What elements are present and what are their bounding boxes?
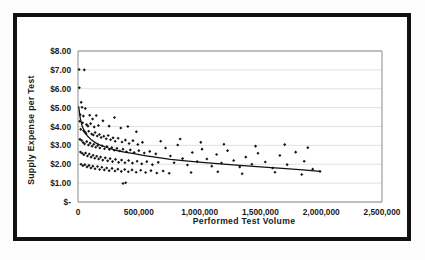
chart-canvas: $-$1.00$2.00$3.00$4.00$5.00$6.00$7.00$8.…: [17, 17, 415, 245]
data-point: [128, 142, 131, 145]
data-point: [135, 130, 138, 133]
data-point: [190, 171, 193, 174]
data-point: [82, 115, 85, 118]
data-point: [109, 138, 112, 141]
data-point: [168, 172, 171, 175]
data-point: [89, 122, 92, 125]
data-point: [303, 160, 306, 163]
data-point: [210, 165, 213, 168]
data-point: [176, 143, 179, 146]
data-point: [216, 170, 219, 173]
data-point: [145, 160, 148, 163]
data-point: [232, 159, 235, 162]
data-point: [91, 117, 94, 120]
data-point: [116, 168, 119, 171]
data-point: [114, 158, 117, 161]
data-point: [117, 137, 120, 140]
data-point: [108, 169, 111, 172]
data-point: [88, 114, 91, 117]
data-point: [155, 171, 158, 174]
data-point: [111, 136, 114, 139]
data-point: [115, 147, 118, 150]
data-point: [110, 167, 113, 170]
data-point: [131, 139, 134, 142]
data-point: [101, 119, 104, 122]
x-axis-title: Performed Test Volume: [193, 216, 296, 226]
data-point: [93, 125, 96, 128]
data-point: [126, 125, 129, 128]
data-point: [93, 167, 96, 170]
y-tick-label: $6.00: [50, 84, 71, 94]
data-point: [119, 126, 122, 129]
y-tick-label: $2.00: [50, 159, 71, 169]
data-point: [300, 173, 303, 176]
y-axis-ticks: $-$1.00$2.00$3.00$4.00$5.00$6.00$7.00$8.…: [50, 46, 71, 207]
chart-frame: $-$1.00$2.00$3.00$4.00$5.00$6.00$7.00$8.…: [13, 13, 411, 241]
data-point: [121, 182, 124, 185]
data-point: [113, 169, 116, 172]
data-point: [85, 140, 88, 143]
data-point: [135, 171, 138, 174]
y-tick-label: $4.00: [50, 122, 71, 132]
data-point: [149, 169, 152, 172]
data-point: [200, 148, 203, 151]
scatter-chart: $-$1.00$2.00$3.00$4.00$5.00$6.00$7.00$8.…: [17, 17, 415, 245]
data-point: [90, 156, 93, 159]
data-point: [226, 149, 229, 152]
data-point: [143, 151, 146, 154]
data-point: [93, 157, 96, 160]
data-point: [169, 154, 172, 157]
data-point: [241, 172, 244, 175]
y-tick-label: $3.00: [50, 140, 71, 150]
data-point: [136, 160, 139, 163]
y-tick-label: $8.00: [50, 46, 71, 56]
data-point: [120, 170, 123, 173]
data-point: [109, 157, 112, 160]
y-tick-label: $5.00: [50, 103, 71, 113]
data-point: [250, 163, 253, 166]
data-point: [124, 139, 127, 142]
screenshot-root: $-$1.00$2.00$3.00$4.00$5.00$6.00$7.00$8.…: [0, 0, 425, 260]
data-point: [120, 140, 123, 143]
data-point: [83, 68, 86, 71]
data-point: [101, 159, 104, 162]
data-point: [181, 157, 184, 160]
data-point: [98, 146, 101, 149]
data-point: [79, 128, 82, 131]
data-point: [104, 156, 107, 159]
data-point: [80, 101, 83, 104]
data-point: [114, 140, 117, 143]
y-tick-label: $1.00: [50, 178, 71, 188]
data-point: [141, 141, 144, 144]
data-point: [87, 130, 90, 133]
data-point: [92, 154, 95, 157]
data-point: [108, 125, 111, 128]
x-tick-label: 500,000: [124, 207, 154, 217]
data-point: [106, 159, 109, 162]
data-point: [244, 156, 247, 159]
data-point: [97, 157, 100, 160]
data-point: [179, 137, 182, 140]
data-point: [105, 166, 108, 169]
data-point: [120, 159, 123, 162]
data-point: [294, 151, 297, 154]
data-point: [95, 155, 98, 158]
data-point: [91, 165, 94, 168]
data-point: [148, 150, 151, 153]
x-tick-label: 2,500,000: [364, 207, 401, 217]
data-point: [286, 163, 289, 166]
data-point: [103, 168, 106, 171]
y-tick-label: $7.00: [50, 65, 71, 75]
data-point: [144, 171, 147, 174]
y-tick-label: $-: [64, 197, 72, 207]
data-point: [105, 137, 108, 140]
data-point: [94, 146, 97, 149]
data-point: [256, 152, 259, 155]
data-point: [95, 114, 98, 117]
data-point: [215, 153, 218, 156]
data-point: [129, 148, 132, 151]
data-point: [130, 168, 133, 171]
data-point: [154, 152, 157, 155]
data-point: [117, 161, 120, 164]
data-point: [164, 146, 167, 149]
